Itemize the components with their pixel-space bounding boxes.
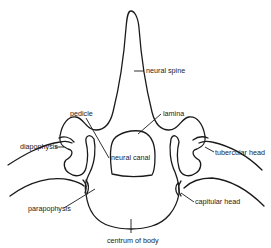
label-pedicle: pedicle bbox=[70, 109, 93, 118]
label-centrum: centrum of body bbox=[107, 236, 159, 245]
label-tubercular-head: tubercular head bbox=[215, 148, 265, 157]
left-rib-lower bbox=[10, 179, 84, 196]
label-neural-canal: neural canal bbox=[111, 153, 151, 162]
label-diapophysis: diapophysis bbox=[20, 142, 58, 151]
vertebra-diagram: neural spine pedicle lamina neural canal… bbox=[0, 0, 271, 248]
right-capitular-facet bbox=[176, 183, 178, 195]
label-capitular-head: capitular head bbox=[195, 197, 240, 206]
label-parapophysis: parapophysis bbox=[28, 204, 71, 213]
leader-pedicle bbox=[86, 118, 109, 158]
label-lamina: lamina bbox=[163, 109, 184, 118]
label-neural-spine: neural spine bbox=[146, 66, 185, 75]
leader-capitular-head bbox=[181, 193, 194, 202]
vertebra-outline bbox=[60, 11, 205, 229]
leader-tubercular-head bbox=[205, 147, 214, 152]
